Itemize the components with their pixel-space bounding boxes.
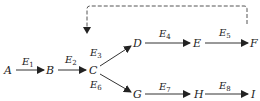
node-b: B <box>45 64 54 77</box>
edge-label-e2: E2 <box>64 54 77 67</box>
feedback-dashed-edge <box>87 6 247 27</box>
node-g: G <box>133 88 142 101</box>
edge-label-e4: E4 <box>158 28 171 41</box>
edge-label-e3: E3 <box>89 47 102 60</box>
node-d: D <box>132 37 142 50</box>
edge-c-g <box>100 74 131 92</box>
workflow-diagram: A B C D E F G H I E1 E2 E3 E4 E5 E6 E7 E… <box>0 0 260 101</box>
edge-label-e8: E8 <box>218 80 231 93</box>
edge-c-d <box>100 46 131 66</box>
node-h: H <box>193 88 204 101</box>
node-c: C <box>89 64 98 77</box>
node-e: E <box>192 37 201 50</box>
node-i: I <box>250 88 256 101</box>
node-a: A <box>3 64 12 77</box>
node-f: F <box>249 37 258 50</box>
edge-label-e1: E1 <box>21 56 34 69</box>
edge-label-e7: E7 <box>158 81 171 94</box>
edge-label-e5: E5 <box>218 27 231 40</box>
edge-label-e6: E6 <box>89 79 102 92</box>
feedback-arrowhead-icon <box>83 27 91 34</box>
